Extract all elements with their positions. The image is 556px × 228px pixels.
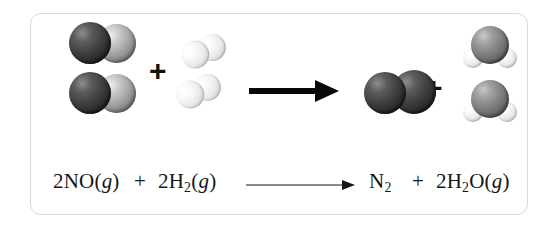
no-state-close: ) [112,169,119,193]
nitrogen-atom-sphere [364,72,406,114]
equation-plus-1: + [134,169,146,194]
h2o-state: g [492,169,503,193]
h2-state-close: ) [209,169,216,193]
h2-state: g [198,169,209,193]
nitrogen-atom-sphere [69,72,111,114]
chemical-equation: 2NO(g) + 2H2(g) N2 + 2H2O(g) [31,159,527,214]
equation-arrow-icon [246,177,356,193]
oxygen-atom-sphere [471,26,509,64]
plus-sign-reactants: + [149,56,167,86]
equation-reactant-no: 2NO(g) [53,169,120,194]
h2o-formula: H [447,169,462,193]
equation-plus-2: + [412,169,424,194]
equation-product-n2: N2 [369,169,392,196]
n2-subscript: 2 [384,180,391,195]
equation-product-h2o: 2H2O(g) [436,169,510,196]
molecule-no-2 [69,72,147,114]
oxygen-atom-sphere [471,80,509,118]
no-coefficient: 2 [53,169,64,193]
h2o-state-open: ( [485,169,492,193]
h2o-coefficient: 2 [436,169,447,193]
molecule-h2-2 [171,62,241,124]
molecule-h2o-2 [463,80,525,128]
h2-coefficient: 2 [158,169,169,193]
no-state: g [102,169,113,193]
molecule-h2o-1 [463,26,525,74]
no-formula: NO [64,169,95,193]
h2o-state-close: ) [503,169,510,193]
h2-formula: H [169,169,184,193]
h2o-formula-tail: O [469,169,484,193]
molecular-model-row: + + [31,14,527,154]
nitrogen-atom-sphere [69,22,111,64]
molecule-n2 [364,70,442,116]
n2-formula: N [369,169,384,193]
figure-frame: + + [30,13,528,215]
no-state-open: ( [94,169,101,193]
reaction-arrow-icon [249,76,341,106]
molecule-no-1 [69,22,147,64]
equation-reactant-h2: 2H2(g) [158,169,216,196]
